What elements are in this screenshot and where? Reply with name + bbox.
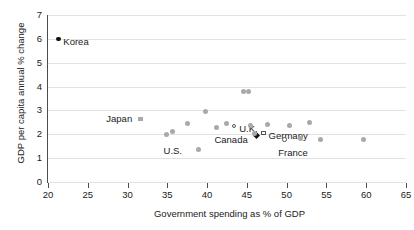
data-point: [246, 89, 251, 94]
x-tick: [167, 183, 168, 188]
gridline: [48, 182, 406, 183]
data-point-germany: [261, 131, 266, 136]
gridline: [48, 158, 406, 159]
point-label-us: U.S.: [164, 146, 182, 156]
gridline: [48, 39, 406, 40]
gridline: [48, 15, 406, 16]
gridline: [48, 87, 406, 88]
gridline: [48, 63, 406, 64]
data-point: [224, 121, 229, 126]
x-tick: [366, 183, 367, 188]
x-tick: [48, 183, 49, 188]
point-label-korea: Korea: [63, 37, 88, 47]
y-tick-label: 4: [20, 82, 42, 92]
x-tick: [326, 183, 327, 188]
x-tick-label: 30: [113, 190, 143, 200]
data-point: [248, 123, 253, 128]
x-tick-label: 65: [391, 190, 414, 200]
y-tick-label: 6: [20, 34, 42, 44]
gridline: [48, 110, 406, 111]
plot-area: [48, 15, 406, 182]
data-point: [203, 109, 208, 114]
data-point-japan: [138, 117, 143, 122]
y-tick-label: 0: [20, 177, 42, 187]
x-tick-label: 40: [192, 190, 222, 200]
point-label-canada: Canada: [214, 135, 247, 145]
x-tick-label: 45: [232, 190, 262, 200]
x-tick-label: 25: [73, 190, 103, 200]
x-tick-label: 50: [272, 190, 302, 200]
data-point: [265, 122, 270, 127]
x-tick: [287, 183, 288, 188]
y-tick-label: 5: [20, 58, 42, 68]
x-tick: [88, 183, 89, 188]
x-tick: [406, 183, 407, 188]
point-label-japan: Japan: [106, 114, 132, 124]
x-tick: [128, 183, 129, 188]
x-tick: [207, 183, 208, 188]
data-point: [298, 136, 303, 141]
x-tick-label: 60: [351, 190, 381, 200]
x-tick-label: 55: [311, 190, 341, 200]
x-tick-label: 35: [152, 190, 182, 200]
point-label-france: France: [278, 148, 308, 158]
y-tick-label: 1: [20, 153, 42, 163]
data-point-france: [282, 137, 287, 142]
data-point: [185, 121, 190, 126]
data-point: [318, 137, 323, 142]
y-tick-label: 7: [20, 10, 42, 20]
scatter-chart: GDP per capita annual % change Governmen…: [0, 0, 414, 230]
x-tick: [247, 183, 248, 188]
x-tick-label: 20: [33, 190, 63, 200]
y-tick-label: 3: [20, 105, 42, 115]
data-point-korea: [56, 37, 61, 42]
data-point: [361, 137, 366, 142]
y-tick-label: 2: [20, 129, 42, 139]
x-axis-title: Government spending as % of GDP: [45, 208, 414, 219]
